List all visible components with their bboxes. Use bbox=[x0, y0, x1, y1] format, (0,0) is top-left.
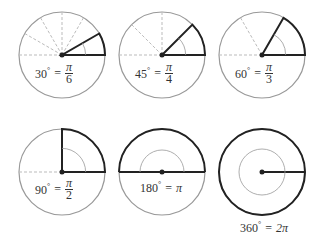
label-180: 180° = π bbox=[140, 180, 182, 196]
angle-diagrams bbox=[0, 0, 325, 239]
label-30: 30° = π6 bbox=[35, 62, 73, 85]
label-60: 60° = π3 bbox=[235, 62, 273, 85]
label-360: 360° = 2π bbox=[240, 220, 288, 236]
label-90: 90° = π2 bbox=[35, 178, 73, 201]
label-45: 45° = π4 bbox=[135, 62, 173, 85]
